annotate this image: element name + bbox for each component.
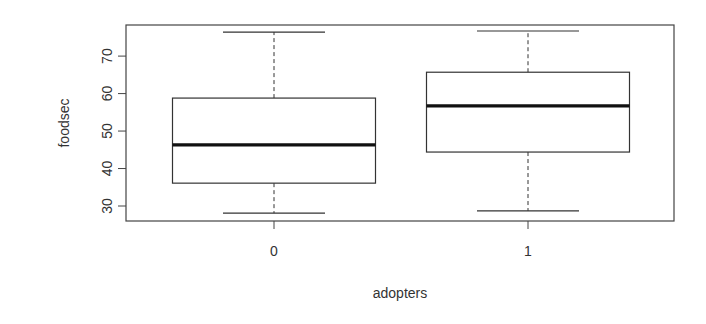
boxes (173, 31, 630, 213)
y-tick-label: 30 (99, 198, 115, 214)
y-tick-label: 60 (99, 86, 115, 102)
iqr-box (427, 72, 630, 152)
iqr-box (173, 98, 376, 183)
y-tick-label: 40 (99, 161, 115, 177)
box-group-0 (173, 32, 376, 213)
y-tick-label: 50 (99, 123, 115, 139)
box-group-1 (427, 31, 630, 211)
x-axis: 01 (270, 221, 532, 259)
boxplot-chart: 3040506070 01 foodsec adopters (0, 0, 706, 324)
x-tick-label: 1 (524, 243, 532, 259)
x-tick-label: 0 (270, 243, 278, 259)
y-tick-label: 70 (99, 48, 115, 64)
y-axis-label: foodsec (56, 98, 72, 147)
x-axis-label: adopters (373, 285, 427, 301)
y-axis: 3040506070 (99, 48, 126, 214)
